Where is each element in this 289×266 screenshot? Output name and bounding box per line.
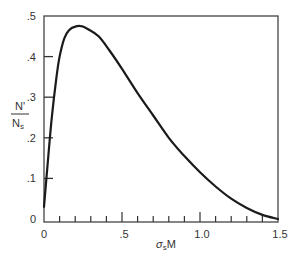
x-axis-label: σsM	[156, 238, 176, 252]
chart: 0.1.2.3.4.5 0.51.01.5 N' Ns σsM	[0, 0, 289, 266]
x-tick-label: 1.5	[272, 228, 287, 240]
x-tick-label: .5	[119, 228, 128, 240]
y-axis-label: N' Ns	[11, 100, 29, 131]
plot-frame	[44, 16, 278, 222]
y-tick-label: .4	[27, 51, 36, 63]
x-tick-label: 0	[41, 228, 47, 240]
y-tick-label: .1	[27, 172, 36, 184]
y-label-denominator: Ns	[12, 117, 24, 131]
y-label-numerator: N'	[15, 100, 25, 112]
x-tick-label: 1.0	[194, 228, 209, 240]
y-axis-ticks: 0.1.2.3.4.5	[27, 10, 53, 225]
data-curve	[44, 26, 278, 219]
y-tick-label: .5	[27, 10, 36, 22]
y-tick-label: 0	[30, 213, 36, 225]
y-tick-label: .2	[27, 132, 36, 144]
y-tick-label: .3	[27, 91, 36, 103]
x-axis-ticks: 0.51.01.5	[41, 212, 288, 240]
